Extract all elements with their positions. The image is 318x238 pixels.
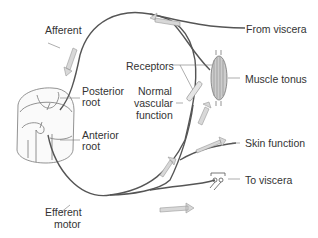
label-normal-2: vascular (134, 97, 173, 109)
spinal-cord (17, 88, 74, 163)
label-anterior-root-2: root (82, 140, 100, 152)
label-receptors: Receptors (126, 60, 174, 72)
label-skin-function: Skin function (245, 137, 305, 149)
label-posterior-root-2: root (82, 96, 100, 108)
label-to-viscera: To viscera (245, 174, 292, 186)
label-efferent-2: motor (54, 218, 81, 230)
label-muscle-tonus: Muscle tonus (245, 73, 307, 85)
label-normal-3: function (136, 109, 173, 121)
label-afferent: Afferent (45, 24, 82, 36)
label-from-viscera: From viscera (246, 23, 307, 35)
muscle-icon (211, 50, 227, 106)
vascular-icon (186, 81, 203, 102)
label-normal-1: Normal (138, 85, 172, 97)
label-efferent-1: Efferent (45, 206, 82, 218)
